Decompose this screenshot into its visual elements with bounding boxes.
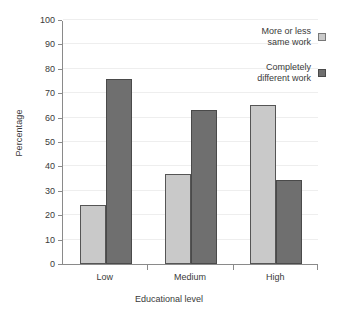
y-tick-label: 60 <box>45 112 55 125</box>
x-category-label: Medium <box>174 272 206 282</box>
bar <box>106 79 132 264</box>
bar <box>191 110 217 264</box>
x-axis-end-tick <box>317 265 318 270</box>
y-tick-label: 40 <box>45 160 55 173</box>
bar <box>165 174 191 264</box>
y-tick-label: 50 <box>45 136 55 149</box>
x-category-label: High <box>266 272 285 282</box>
legend-swatch <box>318 69 326 77</box>
bar <box>80 205 106 264</box>
y-tick-label: 90 <box>45 38 55 51</box>
x-category-label: Low <box>96 272 113 282</box>
y-axis-ticks: 0102030405060708090100 <box>0 0 62 324</box>
x-axis-separator-tick <box>233 265 234 270</box>
x-axis-ticks: LowMediumHigh <box>62 265 318 295</box>
x-axis-separator-tick <box>147 265 148 270</box>
y-tick-label: 0 <box>50 258 55 271</box>
legend-label: More or less same work <box>261 26 318 48</box>
gridline <box>63 19 318 20</box>
y-tick-label: 100 <box>40 14 55 27</box>
y-tick-label: 80 <box>45 63 55 76</box>
x-axis-title-text: Educational level <box>135 294 203 304</box>
y-tick-label: 20 <box>45 209 55 222</box>
legend-label: Completely different work <box>257 62 318 84</box>
y-tick-label: 30 <box>45 185 55 198</box>
bar-chart: Percentage 0102030405060708090100 LowMed… <box>0 0 338 324</box>
bar <box>276 180 302 264</box>
legend-entry[interactable]: Completely different work <box>196 62 326 84</box>
legend-entry[interactable]: More or less same work <box>196 26 326 48</box>
y-tick-label: 10 <box>45 234 55 247</box>
legend-swatch <box>318 33 326 41</box>
y-tick-label: 70 <box>45 87 55 100</box>
legend: More or less same workCompletely differe… <box>196 26 326 98</box>
x-axis-title: Educational level <box>0 294 338 304</box>
bar <box>250 105 276 264</box>
